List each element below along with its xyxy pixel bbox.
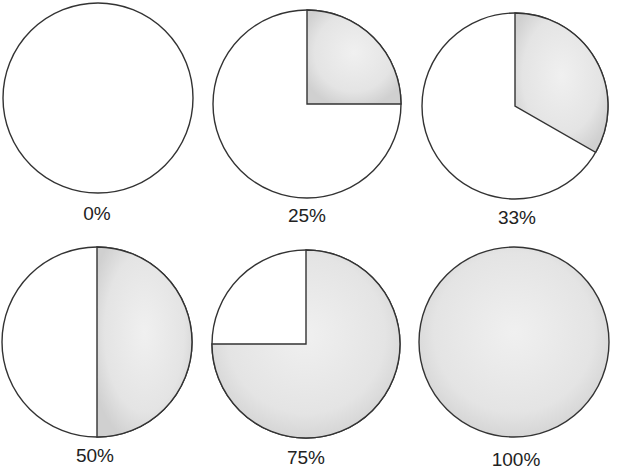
pie-25pct xyxy=(213,10,401,198)
pie-0pct xyxy=(3,3,193,193)
pie-label: 25% xyxy=(288,205,326,227)
pie-circle xyxy=(419,247,609,437)
pie-75pct xyxy=(212,250,400,438)
pie-slice xyxy=(307,10,401,104)
pie-50pct xyxy=(2,247,192,437)
pie-chart-grid xyxy=(0,0,624,472)
pie-label: 33% xyxy=(498,207,536,229)
pie-100pct xyxy=(419,247,609,437)
pie-label: 100% xyxy=(492,449,541,471)
pie-slice xyxy=(97,247,192,437)
pie-33pct xyxy=(422,13,608,199)
pie-circle xyxy=(3,3,193,193)
pie-label: 75% xyxy=(287,447,325,469)
pie-label: 50% xyxy=(76,445,114,467)
pie-label: 0% xyxy=(83,203,110,225)
